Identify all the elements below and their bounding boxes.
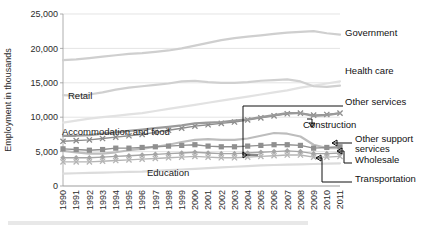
data-point <box>205 143 210 148</box>
cut-off-caption <box>8 221 308 225</box>
callout-label: Construction <box>303 119 356 130</box>
y-axis-ticks: 05,00010,00015,00020,00025,000 <box>30 9 63 191</box>
y-axis-title: Employment in thousands <box>3 48 13 152</box>
x-tick-label: 2005 <box>256 190 266 210</box>
data-point <box>298 143 303 148</box>
figure-caption <box>8 221 308 225</box>
series-line <box>63 81 340 122</box>
series-line <box>63 163 340 173</box>
data-point <box>219 144 224 149</box>
y-axis-title-text: Employment in thousands <box>3 48 13 152</box>
gridlines <box>63 14 340 186</box>
inline-series-labels: RetailAccommodation and foodEducation <box>62 90 189 178</box>
data-point <box>74 147 79 152</box>
callout-label: Wholesale <box>355 154 399 165</box>
data-point <box>113 146 118 151</box>
x-tick-label: 2003 <box>230 190 240 210</box>
x-tick-label: 2011 <box>335 190 345 209</box>
data-point <box>140 145 145 150</box>
x-tick-label: 2009 <box>309 190 319 210</box>
data-point <box>153 144 158 149</box>
x-tick-label: 1991 <box>71 190 81 210</box>
x-tick-label: 1999 <box>177 190 187 210</box>
inline-label: Accommodation and food <box>62 126 170 137</box>
callout-label: services <box>355 143 390 154</box>
data-point <box>271 142 276 147</box>
y-tick-label: 25,000 <box>30 9 58 19</box>
y-tick-label: 5,000 <box>35 147 58 157</box>
series-education <box>63 163 340 173</box>
chart-svg: 05,00010,00015,00020,00025,000 199019911… <box>0 0 426 227</box>
series-government <box>63 31 340 60</box>
data-point <box>192 142 197 147</box>
data-point <box>258 143 263 148</box>
x-tick-label: 2006 <box>269 190 279 210</box>
data-point <box>60 146 65 151</box>
data-point <box>179 143 184 148</box>
y-tick-label: 20,000 <box>30 44 58 54</box>
y-tick-label: 15,000 <box>30 78 58 88</box>
x-tick-label: 1997 <box>151 190 161 210</box>
x-tick-label: 1996 <box>137 190 147 210</box>
x-tick-label: 2002 <box>217 190 227 210</box>
callout-label: Health care <box>345 65 394 76</box>
series-health-care <box>63 81 340 122</box>
x-tick-label: 1994 <box>111 190 121 210</box>
x-tick-label: 2000 <box>190 190 200 210</box>
x-tick-label: 2007 <box>283 190 293 210</box>
y-tick-label: 10,000 <box>30 112 58 122</box>
x-tick-label: 2008 <box>296 190 306 210</box>
data-point <box>324 145 329 150</box>
x-tick-label: 2004 <box>243 190 253 210</box>
data-point <box>87 148 92 153</box>
data-point <box>285 142 290 147</box>
x-tick-label: 1993 <box>98 190 108 210</box>
data-point <box>232 144 237 149</box>
series-layer <box>60 31 343 173</box>
x-tick-label: 1990 <box>58 190 68 210</box>
x-tick-label: 2010 <box>322 190 332 210</box>
series-line <box>63 31 340 60</box>
data-point <box>126 146 131 151</box>
callout-label: Other services <box>345 96 406 107</box>
data-point <box>166 143 171 148</box>
callout-label: Transportation <box>355 173 416 184</box>
data-point <box>245 143 250 148</box>
axis-lines <box>63 14 340 186</box>
inline-label: Education <box>147 167 189 178</box>
x-tick-label: 1995 <box>124 190 134 210</box>
x-tick-label: 1998 <box>164 190 174 210</box>
callout-label: Government <box>345 27 398 38</box>
x-axis-ticks: 1990199119921993199419951996199719981999… <box>58 190 345 210</box>
employment-line-chart: 05,00010,00015,00020,00025,000 199019911… <box>0 0 426 227</box>
x-tick-label: 1992 <box>85 190 95 210</box>
inline-label: Retail <box>68 90 92 101</box>
y-tick-label: 0 <box>53 181 58 191</box>
data-point <box>311 146 316 151</box>
x-tick-label: 2001 <box>203 190 213 210</box>
data-point <box>100 147 105 152</box>
